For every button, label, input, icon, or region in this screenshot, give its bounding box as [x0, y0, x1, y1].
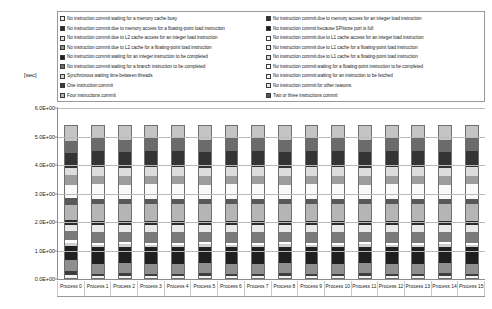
legend-item-label: Four instructions commit	[67, 91, 116, 101]
gridline	[58, 165, 485, 166]
legend-item-label: Two or three instructions commit	[273, 91, 338, 101]
bar-segment	[145, 204, 157, 221]
bar-segment	[279, 126, 291, 140]
y-axis-tick-label: 1.0E+00	[35, 248, 55, 254]
bar-segment	[199, 247, 211, 263]
x-axis-label: Process 13	[405, 281, 432, 296]
bar-segment	[252, 204, 264, 221]
y-axis-tick-mark	[55, 250, 58, 251]
bar-segment	[92, 176, 104, 184]
bar-segment	[439, 168, 451, 176]
bar-segment	[386, 176, 398, 184]
bar-segment	[279, 176, 291, 185]
bar-segment	[412, 167, 424, 175]
bar-segment	[359, 168, 371, 176]
gridline	[58, 137, 485, 138]
bar-segment	[466, 204, 478, 221]
bar-segment	[466, 184, 478, 199]
bar-segment	[306, 167, 318, 175]
bar-segment	[306, 232, 318, 242]
legend-item-label: No instruction commit due to L1 cache fo…	[273, 52, 418, 62]
legend-item-label: No instruction commit because SP/store p…	[273, 24, 373, 34]
bar-segment	[386, 167, 398, 175]
bar-segment	[466, 138, 478, 151]
bar-segment	[439, 247, 451, 263]
stacked-bar	[198, 125, 212, 279]
bar-segment	[306, 204, 318, 221]
bar-segment	[252, 232, 264, 242]
legend-swatch-icon	[266, 26, 271, 31]
stacked-bar	[171, 125, 185, 279]
bar-segment	[332, 167, 344, 175]
bar-segment	[199, 140, 211, 153]
bar-segment	[199, 263, 211, 273]
bar-segment	[145, 184, 157, 199]
bar-segment	[172, 176, 184, 184]
bar-segment	[119, 204, 131, 221]
bar-segment	[359, 225, 371, 232]
legend-item: No instruction commit because SP/store p…	[266, 24, 483, 34]
bar-segment	[252, 264, 264, 274]
bar-segment	[306, 184, 318, 199]
bar-segment	[145, 176, 157, 184]
bar-segment	[386, 232, 398, 242]
legend-swatch-icon	[60, 93, 65, 98]
x-axis-label: Process 8	[272, 281, 299, 296]
bar-segment	[359, 126, 371, 140]
bar-segment	[412, 264, 424, 274]
bar-segment	[145, 167, 157, 175]
bar-segment	[439, 140, 451, 153]
legend-item-label: No instruction commit waiting for a floa…	[273, 62, 423, 72]
legend-swatch-icon	[266, 74, 271, 79]
bar-segment	[199, 176, 211, 185]
y-axis-tick-mark	[55, 193, 58, 194]
bar-segment	[279, 185, 291, 199]
x-axis-label: Process 11	[352, 281, 379, 296]
legend-item-label: No instruction commit due to L2 cache fo…	[67, 43, 212, 53]
bar-segment	[439, 276, 451, 278]
y-axis-tick-label: 4.0E+00	[35, 162, 55, 168]
bar-segment	[359, 263, 371, 273]
gridline	[58, 194, 485, 195]
legend-item: Four instructions commit	[60, 91, 266, 101]
bar-segment	[119, 126, 131, 140]
bar-segment	[119, 168, 131, 176]
bar-segment	[119, 232, 131, 242]
stacked-bar	[251, 125, 265, 279]
bar-segment	[199, 276, 211, 278]
y-axis-tick-label: 2.0E+00	[35, 219, 55, 225]
bar-segment	[226, 276, 238, 278]
bar-segment	[359, 276, 371, 278]
bar-segment	[412, 204, 424, 221]
bar-segment	[65, 175, 77, 185]
y-axis-tick-label: 0.0E+00	[35, 276, 55, 282]
bar-segment	[412, 276, 424, 278]
bar-segment	[332, 225, 344, 232]
bar-segment	[226, 225, 238, 232]
legend-item-label: No instruction commit due to L1 cache fo…	[273, 43, 418, 53]
legend-item-label: No instruction commit waiting for an int…	[67, 52, 208, 62]
legend-item-label: No instruction commit for other reasons	[273, 81, 351, 91]
bar-segment	[145, 138, 157, 151]
bar-segment	[92, 167, 104, 175]
legend-item-label: No instruction commit waiting for a bran…	[67, 62, 205, 72]
bar-segment	[332, 184, 344, 199]
legend-item: No instruction commit waiting for a memo…	[60, 14, 266, 24]
bar-segment	[65, 168, 77, 175]
x-axis-label: Process 2	[111, 281, 138, 296]
legend-item: No instruction commit due to L1 cache ac…	[266, 33, 483, 43]
bar-segment	[439, 263, 451, 273]
bar-segment	[386, 276, 398, 278]
bar-segment	[412, 184, 424, 199]
stacked-bar	[305, 125, 319, 279]
x-axis-label: Process 4	[165, 281, 192, 296]
y-axis-tick-label: 5.0E+00	[35, 134, 55, 140]
bar-segment	[279, 204, 291, 221]
bar-segment	[119, 140, 131, 153]
legend-item-label: Synchronous waiting time between threads	[67, 71, 153, 81]
bar-segment	[172, 276, 184, 278]
legend-item: No instruction commit due to memory acce…	[266, 14, 483, 24]
legend-swatch-icon	[266, 93, 271, 98]
bar-segment	[226, 167, 238, 175]
y-axis-tick-mark	[55, 108, 58, 109]
